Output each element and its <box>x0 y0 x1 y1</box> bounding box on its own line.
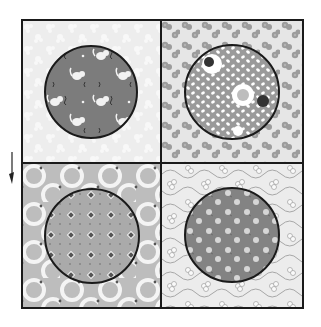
block-top-right-circle <box>185 45 279 139</box>
block-bottom-right-circle <box>185 188 279 282</box>
block-bottom-left-circle <box>45 189 139 283</box>
quilt-diagram <box>0 0 321 327</box>
quilt-canvas <box>0 0 321 327</box>
arrow-down-icon <box>9 152 14 184</box>
block-top-left-circle <box>45 46 137 138</box>
